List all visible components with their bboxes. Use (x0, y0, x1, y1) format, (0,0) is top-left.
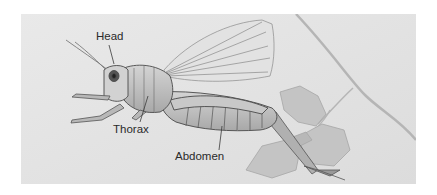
label-abdomen: Abdomen (175, 151, 224, 163)
thorax-body (124, 65, 173, 112)
illustration-panel: Head Thorax Abdomen (21, 14, 416, 184)
label-thorax: Thorax (113, 124, 149, 136)
label-head: Head (96, 31, 124, 43)
